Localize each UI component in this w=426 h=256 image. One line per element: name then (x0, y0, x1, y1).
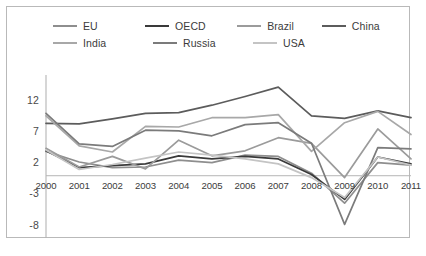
chart-frame: EUOECDBrazilChinaIndiaRussiaUSA 1272-3-8… (6, 6, 410, 238)
x-axis-tick-label: 2011 (396, 180, 426, 191)
series-line-india (46, 111, 411, 152)
legend-label: EU (83, 20, 98, 32)
legend-swatch-oecd-icon (145, 25, 169, 27)
x-axis-tick-label: 2002 (97, 180, 127, 191)
x-axis-tick-label: 2008 (296, 180, 326, 191)
series-line-usa (46, 150, 411, 198)
series-line-oecd (46, 151, 411, 200)
x-axis-tick-label: 2006 (230, 180, 260, 191)
x-axis-tick-label: 2001 (64, 180, 94, 191)
x-axis-tick-label: 2005 (197, 180, 227, 191)
y-axis-tick-label: -8 (13, 219, 39, 231)
legend-label: Russia (183, 37, 216, 49)
x-axis-tick-label: 2004 (164, 180, 194, 191)
legend-swatch-usa-icon (253, 42, 277, 44)
legend-swatch-brazil-icon (237, 25, 261, 27)
legend-label: China (352, 20, 380, 32)
legend-label: India (83, 37, 106, 49)
y-axis-tick-label: 2 (13, 156, 39, 168)
chart-legend: EUOECDBrazilChinaIndiaRussiaUSA (53, 17, 401, 55)
legend-row: EUOECDBrazilChina (53, 17, 401, 34)
legend-swatch-eu-icon (53, 25, 77, 27)
legend-label: OECD (175, 20, 206, 32)
legend-swatch-russia-icon (153, 42, 177, 44)
legend-row: IndiaRussiaUSA (53, 34, 401, 51)
legend-item-eu[interactable]: EU (53, 17, 145, 34)
x-axis-tick-label: 2000 (31, 180, 61, 191)
x-axis-tick-label: 2003 (131, 180, 161, 191)
legend-item-brazil[interactable]: Brazil (237, 17, 322, 34)
x-axis-tick-label: 2009 (330, 180, 360, 191)
legend-label: Brazil (267, 20, 294, 32)
y-axis-tick-label: -3 (13, 187, 39, 199)
legend-item-india[interactable]: India (53, 34, 153, 51)
legend-swatch-india-icon (53, 42, 77, 44)
legend-item-oecd[interactable]: OECD (145, 17, 237, 34)
x-axis-tick-label: 2007 (263, 180, 293, 191)
x-axis-tick-label: 2010 (363, 180, 393, 191)
legend-item-china[interactable]: China (322, 17, 401, 34)
legend-item-russia[interactable]: Russia (153, 34, 253, 51)
legend-swatch-china-icon (322, 25, 346, 27)
legend-label: USA (283, 37, 305, 49)
series-line-china (46, 87, 411, 124)
y-axis-tick-label: 7 (13, 125, 39, 137)
series-line-eu (46, 151, 411, 203)
y-axis-tick-label: 12 (13, 94, 39, 106)
legend-item-usa[interactable]: USA (253, 34, 345, 51)
series-line-brazil (46, 129, 411, 178)
series-line-russia (46, 113, 411, 224)
